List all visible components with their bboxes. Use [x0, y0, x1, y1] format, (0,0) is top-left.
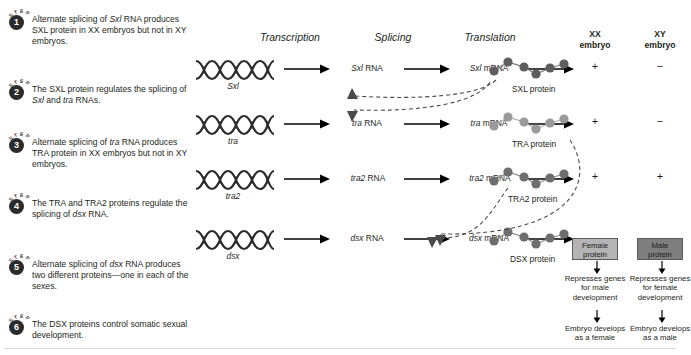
step-badge-1: STEP 1 [6, 8, 34, 36]
step-text-4: The TRA and TRA2 proteins regulate the s… [32, 198, 190, 220]
arrowhead-dsx-splice-tra2 [427, 237, 438, 248]
step-number-5: 5 [9, 260, 24, 275]
step-number-1: 1 [9, 15, 24, 30]
arrow-male-to-represses [658, 261, 666, 274]
step-badge-5: STEP 5 [6, 253, 34, 281]
male-represses-text: Represses genes for female development [629, 274, 691, 302]
arrow-female-to-represses [593, 261, 601, 274]
step-text-3: Alternate splicing of tra RNA produces T… [32, 137, 190, 171]
female-protein-line1: Female [573, 241, 617, 250]
arrowhead-dsx-splice-tra [435, 235, 446, 246]
step-number-2: 2 [9, 85, 24, 100]
female-protein-line2: protein [573, 250, 617, 259]
step-text-2: The SXL protein regulates the splicing o… [32, 84, 190, 106]
step-text-6: The DSX proteins control somatic sexual … [32, 319, 190, 341]
arrowhead-tra-splice [347, 111, 358, 122]
steps-panel: STEP 1 Alternate splicing of Sxl RNA pro… [0, 0, 190, 355]
step-number-3: 3 [9, 138, 24, 153]
arrow-female-to-result [593, 310, 601, 323]
step-badge-4: STEP 4 [6, 192, 34, 220]
male-protein-line2: protein [638, 250, 682, 259]
step-badge-6: STEP 6 [6, 313, 34, 341]
male-protein-line1: Male [638, 241, 682, 250]
male-result-text: Embryo develops as a male [629, 324, 691, 343]
step-badge-3: STEP 3 [6, 131, 34, 159]
male-protein-box: Male protein [637, 238, 683, 260]
step-badge-2: STEP 2 [6, 78, 34, 106]
female-result-text: Embryo develops as a female [564, 324, 626, 343]
step-number-6: 6 [9, 320, 24, 335]
arrow-male-to-result [658, 310, 666, 323]
pathway-diagram: Transcription Splicing Translation XX em… [190, 0, 682, 355]
step-text-5: Alternate splicing of dsx RNA produces t… [32, 259, 190, 293]
step-number-4: 4 [9, 199, 24, 214]
female-protein-box: Female protein [572, 238, 618, 260]
arrowhead-sxl-splice [347, 88, 358, 99]
female-represses-text: Represses genes for male development [564, 274, 626, 302]
step-text-1: Alternate splicing of Sxl RNA produces S… [32, 14, 190, 48]
bottom-divider [4, 348, 676, 349]
